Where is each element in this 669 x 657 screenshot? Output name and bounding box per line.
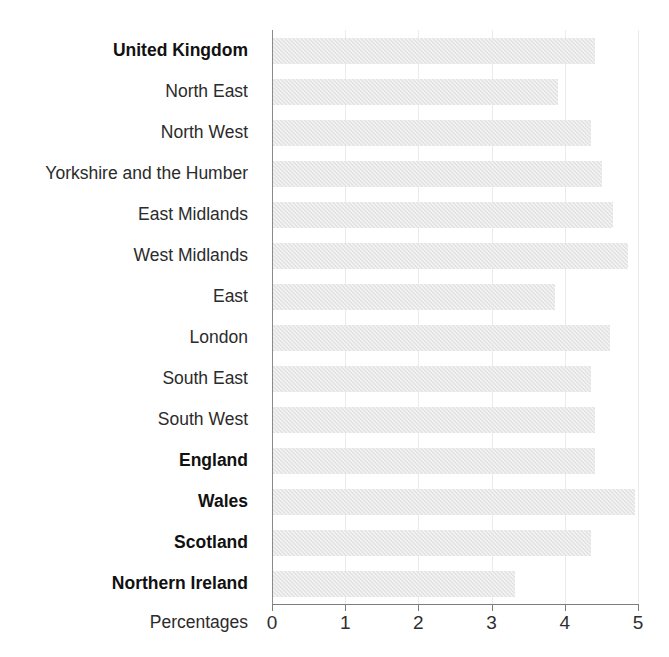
x-tick-label-3: 3	[472, 612, 512, 634]
bar	[273, 571, 515, 597]
x-tick-1	[345, 604, 346, 611]
bar-row: North East	[0, 71, 669, 112]
x-tick-label-0: 0	[252, 612, 292, 634]
bar	[273, 489, 635, 515]
bar	[273, 120, 591, 146]
bar-label: London	[190, 317, 248, 358]
bar-label: South West	[158, 399, 248, 440]
bar	[273, 202, 613, 228]
bar-label: West Midlands	[134, 235, 248, 276]
bar-row: Scotland	[0, 522, 669, 563]
bar	[273, 325, 610, 351]
bar	[273, 530, 591, 556]
x-tick-3	[492, 604, 493, 611]
x-tick-label-4: 4	[545, 612, 585, 634]
bar-label: South East	[162, 358, 248, 399]
bar	[273, 366, 591, 392]
bar-row: South East	[0, 358, 669, 399]
bar	[273, 79, 558, 105]
bar-row: North West	[0, 112, 669, 153]
bar-label: Northern Ireland	[112, 563, 248, 604]
bar-label: North West	[161, 112, 248, 153]
x-tick-label-5: 5	[618, 612, 658, 634]
bar-row: Yorkshire and the Humber	[0, 153, 669, 194]
bar-label: England	[179, 440, 248, 481]
bar-row: England	[0, 440, 669, 481]
bar-label: East Midlands	[138, 194, 248, 235]
bar-chart: 012345 United KingdomNorth EastNorth Wes…	[0, 0, 669, 657]
bar	[273, 38, 595, 64]
x-tick-0	[272, 604, 273, 611]
bar-row: West Midlands	[0, 235, 669, 276]
x-tick-label-1: 1	[325, 612, 365, 634]
bar-label: Scotland	[174, 522, 248, 563]
bar-label: North East	[165, 71, 248, 112]
x-tick-label-2: 2	[398, 612, 438, 634]
plot-area: 012345 United KingdomNorth EastNorth Wes…	[0, 0, 669, 657]
bar-row: United Kingdom	[0, 30, 669, 71]
bar-label: East	[213, 276, 248, 317]
x-tick-5	[638, 604, 639, 611]
x-tick-4	[565, 604, 566, 611]
bar-row: London	[0, 317, 669, 358]
bar	[273, 407, 595, 433]
bar	[273, 161, 602, 187]
bar-row: East	[0, 276, 669, 317]
bar-row: South West	[0, 399, 669, 440]
bar-row: Northern Ireland	[0, 563, 669, 604]
bar-row: East Midlands	[0, 194, 669, 235]
x-axis-title: Percentages	[150, 612, 248, 633]
bar	[273, 284, 555, 310]
bar-row: Wales	[0, 481, 669, 522]
x-tick-2	[418, 604, 419, 611]
bar	[273, 448, 595, 474]
bar	[273, 243, 628, 269]
bar-label: Wales	[198, 481, 248, 522]
bar-label: United Kingdom	[113, 30, 248, 71]
bar-label: Yorkshire and the Humber	[45, 153, 248, 194]
x-axis-line	[272, 604, 639, 605]
